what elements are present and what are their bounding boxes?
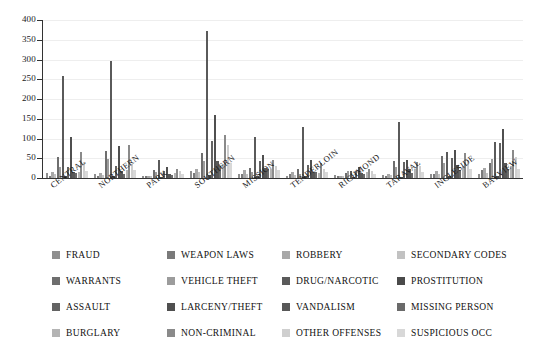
y-axis-tick (37, 40, 42, 41)
y-axis-tick (37, 60, 42, 61)
bar (517, 169, 519, 178)
legend-item[interactable]: DRUG/NARCOTIC (282, 276, 379, 286)
legend-swatch-icon (397, 329, 405, 337)
legend-item[interactable]: VANDALISM (282, 302, 355, 312)
y-axis-tick (37, 119, 42, 120)
y-axis-tick (37, 139, 42, 140)
legend-item[interactable]: BURGLARY (52, 328, 121, 338)
chart-legend: FRAUDWEAPON LAWSROBBERYSECONDARY CODESWA… (0, 250, 536, 346)
y-axis-line (42, 20, 43, 178)
legend-swatch-icon (282, 277, 290, 285)
legend-swatch-icon (167, 277, 175, 285)
legend-item[interactable]: WEAPON LAWS (167, 250, 254, 260)
y-axis-tick-label: 200 (2, 94, 36, 103)
legend-swatch-icon (167, 329, 175, 337)
bar (277, 170, 279, 178)
bar (110, 61, 112, 178)
bar-group (46, 20, 88, 178)
legend-item[interactable]: SUSPICIOUS OCC (397, 328, 492, 338)
y-axis-tick-label: 250 (2, 74, 36, 83)
y-axis-tick (37, 99, 42, 100)
legend-swatch-icon (52, 251, 60, 259)
y-axis-tick-label: 150 (2, 114, 36, 123)
bar-group (382, 20, 424, 178)
legend-swatch-icon (52, 277, 60, 285)
legend-item[interactable]: NON-CRIMINAL (167, 328, 256, 338)
y-axis-tick-label: 100 (2, 134, 36, 143)
legend-item[interactable]: MISSING PERSON (397, 302, 494, 312)
legend-swatch-icon (52, 303, 60, 311)
y-axis-tick (37, 158, 42, 159)
bar (206, 31, 208, 178)
bar-group (190, 20, 232, 178)
legend-item-label: FRAUD (66, 250, 100, 260)
y-axis-tick-label: 50 (2, 153, 36, 162)
legend-item[interactable]: ASSAULT (52, 302, 110, 312)
legend-item-label: PROSTITUTION (411, 276, 483, 286)
bar-group (94, 20, 136, 178)
bar (85, 171, 87, 179)
legend-swatch-icon (397, 303, 405, 311)
bar-group (286, 20, 328, 178)
legend-item-label: MISSING PERSON (411, 302, 494, 312)
legend-swatch-icon (282, 251, 290, 259)
y-axis-tick (37, 20, 42, 21)
legend-swatch-icon (397, 251, 405, 259)
legend-item-label: DRUG/NARCOTIC (296, 276, 379, 286)
y-axis-tick-label: 400 (2, 15, 36, 24)
legend-item[interactable]: ROBBERY (282, 250, 343, 260)
legend-item-label: SUSPICIOUS OCC (411, 328, 492, 338)
y-axis-tick (37, 79, 42, 80)
legend-item-label: WARRANTS (66, 276, 121, 286)
legend-item-label: LARCENY/THEFT (181, 302, 263, 312)
plot-wrapper: 050100150200250300350400 CENTRALNORTHERN… (0, 0, 536, 240)
legend-item[interactable]: VEHICLE THEFT (167, 276, 258, 286)
legend-item-label: ASSAULT (66, 302, 110, 312)
bar-group (142, 20, 184, 178)
y-axis-tick-label: 350 (2, 35, 36, 44)
y-axis-tick (37, 178, 42, 179)
legend-item-label: WEAPON LAWS (181, 250, 254, 260)
legend-item-label: VANDALISM (296, 302, 355, 312)
y-axis-tick-label: 0 (2, 173, 36, 182)
legend-item[interactable]: SECONDARY CODES (397, 250, 507, 260)
legend-item-label: BURGLARY (66, 328, 121, 338)
bar-group (238, 20, 280, 178)
legend-item[interactable]: OTHER OFFENSES (282, 328, 381, 338)
legend-swatch-icon (397, 277, 405, 285)
bar-chart: 050100150200250300350400 CENTRALNORTHERN… (0, 0, 536, 358)
legend-swatch-icon (282, 329, 290, 337)
legend-item[interactable]: PROSTITUTION (397, 276, 483, 286)
legend-swatch-icon (282, 303, 290, 311)
legend-item-label: SECONDARY CODES (411, 250, 507, 260)
legend-item[interactable]: FRAUD (52, 250, 100, 260)
bar (62, 76, 64, 178)
legend-item-label: VEHICLE THEFT (181, 276, 258, 286)
bar-group (430, 20, 472, 178)
legend-item-label: ROBBERY (296, 250, 343, 260)
legend-swatch-icon (52, 329, 60, 337)
plot-area (43, 20, 523, 178)
legend-item-label: NON-CRIMINAL (181, 328, 256, 338)
legend-item-label: OTHER OFFENSES (296, 328, 381, 338)
bar (133, 170, 135, 178)
legend-swatch-icon (167, 251, 175, 259)
y-axis-tick-label: 300 (2, 55, 36, 64)
legend-item[interactable]: WARRANTS (52, 276, 121, 286)
legend-swatch-icon (167, 303, 175, 311)
legend-item[interactable]: LARCENY/THEFT (167, 302, 263, 312)
bar (469, 169, 471, 178)
bar-group (478, 20, 520, 178)
